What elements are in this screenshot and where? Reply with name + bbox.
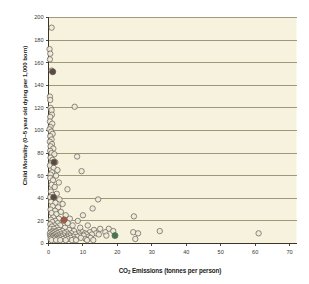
data-point bbox=[50, 69, 56, 75]
data-point bbox=[47, 57, 52, 62]
data-point bbox=[48, 51, 53, 56]
data-point bbox=[90, 206, 95, 211]
x-axis-title-subscript: 2 bbox=[128, 270, 130, 275]
data-point bbox=[55, 167, 60, 172]
data-point bbox=[51, 194, 57, 200]
data-point bbox=[104, 233, 109, 238]
data-point bbox=[65, 187, 70, 192]
y-tick-label: 140 bbox=[19, 82, 44, 88]
x-tick-label: 60 bbox=[245, 249, 265, 255]
scatter-chart: Child Mortality (0–5 year old dying per … bbox=[0, 0, 309, 284]
x-tick-label: 20 bbox=[107, 249, 127, 255]
data-point bbox=[112, 233, 118, 239]
data-point bbox=[75, 218, 80, 223]
x-tick-label: 50 bbox=[211, 249, 231, 255]
y-tick-label: 160 bbox=[19, 60, 44, 66]
data-point bbox=[95, 197, 100, 202]
data-point bbox=[63, 237, 68, 242]
data-point bbox=[256, 231, 261, 236]
data-point bbox=[48, 97, 53, 102]
data-point bbox=[52, 184, 57, 189]
data-point bbox=[51, 159, 57, 165]
x-tick-label: 0 bbox=[39, 249, 59, 255]
y-tick-label: 40 bbox=[19, 195, 44, 201]
data-point bbox=[97, 226, 102, 231]
plot-area bbox=[0, 0, 309, 284]
x-tick-label: 70 bbox=[280, 249, 300, 255]
data-point bbox=[61, 217, 67, 223]
x-tick-label: 10 bbox=[73, 249, 93, 255]
x-tick-label: 30 bbox=[142, 249, 162, 255]
y-axis-title: Child Mortality (0–5 year old dying per … bbox=[21, 16, 28, 216]
x-tick-label: 40 bbox=[176, 249, 196, 255]
data-point bbox=[84, 237, 89, 242]
y-tick-label: 0 bbox=[19, 240, 44, 246]
data-point bbox=[74, 154, 79, 159]
data-point bbox=[72, 104, 77, 109]
data-point bbox=[91, 237, 96, 242]
x-axis-title: CO2 Emissions (tonnes per person) bbox=[45, 267, 295, 274]
data-point bbox=[135, 231, 140, 236]
data-point bbox=[49, 25, 54, 30]
data-point bbox=[157, 228, 162, 233]
data-point bbox=[79, 168, 84, 173]
data-point bbox=[96, 232, 101, 237]
y-tick-label: 80 bbox=[19, 150, 44, 156]
data-point bbox=[80, 213, 85, 218]
y-tick-label: 180 bbox=[19, 37, 44, 43]
y-tick-label: 20 bbox=[19, 218, 44, 224]
data-point bbox=[85, 223, 90, 228]
x-axis-title-pre: CO bbox=[119, 267, 128, 274]
x-axis-title-post: Emissions (tonnes per person) bbox=[130, 267, 221, 274]
y-tick-label: 60 bbox=[19, 173, 44, 179]
y-tick-label: 100 bbox=[19, 127, 44, 133]
data-point bbox=[133, 236, 138, 241]
y-tick-label: 120 bbox=[19, 105, 44, 111]
data-point bbox=[56, 180, 61, 185]
y-tick-label: 200 bbox=[19, 14, 44, 20]
data-point bbox=[73, 237, 78, 242]
data-point bbox=[131, 214, 136, 219]
data-point bbox=[58, 237, 63, 242]
